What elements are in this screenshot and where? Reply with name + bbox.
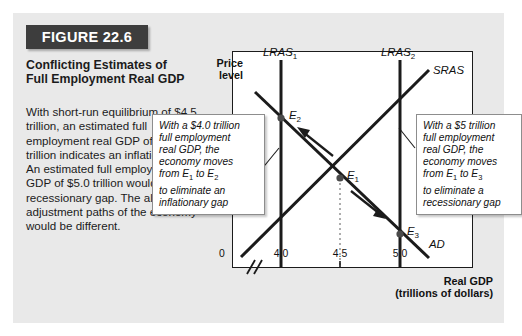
- callout-left-line4: economy moves: [159, 156, 233, 167]
- callout-left-to: to E: [193, 168, 214, 179]
- callout-left-line7: inflationary gap: [159, 197, 228, 208]
- callout-right-line1: With a $5 trillion: [423, 120, 495, 131]
- right-callout-leader: [399, 128, 415, 148]
- chart-panel: Price level: [220, 13, 504, 323]
- inflationary-gap-callout: With a $4.0 trillion full employment rea…: [152, 114, 265, 215]
- callout-left-line3: real GDP, the: [159, 144, 219, 155]
- callout-right-line7: recessionary gap: [423, 197, 501, 208]
- callout-right-line3: real GDP, the: [423, 144, 483, 155]
- figure-container: FIGURE 22.6 Conflicting Estimates of Ful…: [13, 13, 504, 323]
- callout-right-line2: full employment: [423, 132, 494, 143]
- callout-left-e2-sub: 2: [214, 173, 218, 182]
- callout-right-from: from E: [423, 168, 453, 179]
- callout-left-from: from E: [159, 168, 189, 179]
- plot-area: Price level: [232, 51, 473, 268]
- x-axis-origin-label: 0: [219, 248, 225, 259]
- x-axis-title: Real GDP (trillions of dollars): [343, 276, 493, 300]
- callout-right-line4: economy moves: [423, 156, 497, 167]
- callout-right-e3-sub: 3: [478, 173, 482, 182]
- callout-right-line5: from E1 to E3: [423, 168, 482, 179]
- callout-right-line6: to eliminate a: [423, 185, 484, 196]
- x-axis-title-line2: (trillions of dollars): [395, 287, 493, 299]
- x-axis-title-line1: Real GDP: [444, 275, 493, 287]
- figure-number-badge: FIGURE 22.6: [26, 25, 148, 49]
- figure-title: Conflicting Estimates of Full Employment…: [26, 58, 186, 86]
- callout-left-line6: to eliminate an: [159, 185, 225, 196]
- callout-left-line5: from E1 to E2: [159, 168, 218, 179]
- callout-left-line2: full employment: [159, 132, 230, 143]
- recessionary-gap-callout: With a $5 trillion full employment real …: [416, 114, 522, 215]
- callout-left-line1: With a $4.0 trillion: [159, 120, 240, 131]
- callout-right-to: to E: [457, 168, 478, 179]
